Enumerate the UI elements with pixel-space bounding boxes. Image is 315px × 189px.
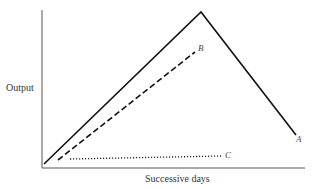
curve-c-label: C xyxy=(225,150,231,160)
curve-a-label: A xyxy=(296,134,302,144)
chart-canvas xyxy=(0,0,315,189)
y-axis-label: Output xyxy=(6,82,34,93)
curve-b xyxy=(58,52,195,160)
x-axis-label: Successive days xyxy=(145,173,210,184)
curve-b-label: B xyxy=(198,43,204,53)
curve-c xyxy=(70,156,222,159)
